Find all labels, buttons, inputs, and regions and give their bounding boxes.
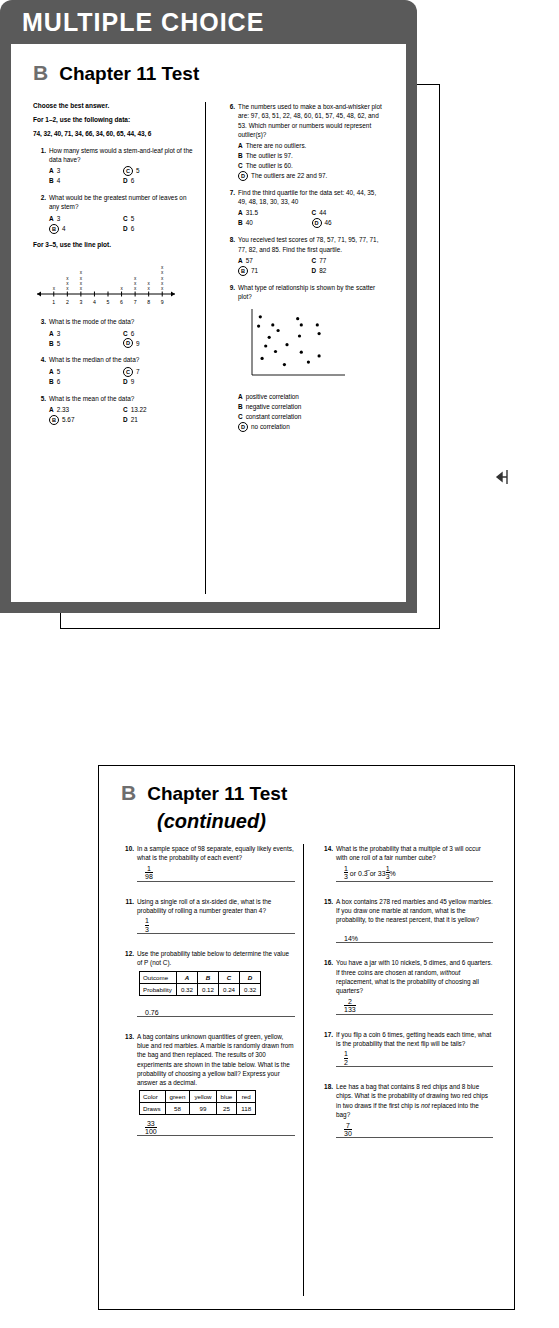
question-text[interactable]: What is the median of the data? — [49, 355, 197, 364]
choice-text[interactable]: 77 — [319, 256, 326, 266]
choice-text[interactable]: 6 — [131, 224, 135, 234]
choice-text[interactable]: 3 — [57, 166, 61, 176]
instruction-line[interactable]: Choose the best answer. — [33, 102, 197, 111]
question[interactable]: 15.A box contains 278 red marbles and 45… — [320, 897, 493, 952]
choice-label[interactable]: A — [238, 256, 243, 266]
choice-text[interactable]: The outlier is 97. — [246, 151, 293, 161]
answer-choice[interactable]: D82 — [312, 266, 386, 276]
choice-text[interactable]: 57 — [246, 256, 253, 266]
question-number[interactable]: 8. — [222, 235, 238, 275]
answer-choice[interactable]: C6 — [123, 329, 197, 339]
choice-label[interactable]: C — [123, 214, 128, 224]
answer-choices[interactable]: A3C5B4D6 — [49, 214, 197, 234]
question[interactable]: 4.What is the median of the data?A5C7B6D… — [33, 355, 197, 386]
question-text[interactable]: What is the mean of the data? — [49, 394, 197, 403]
question-body[interactable]: What type of relationship is shown by th… — [238, 283, 385, 432]
choice-text[interactable]: 3 — [57, 214, 61, 224]
choice-text[interactable]: constant correlation — [246, 412, 302, 422]
choice-text[interactable]: 5 — [57, 339, 61, 349]
choice-label[interactable]: B — [238, 402, 243, 412]
choice-text[interactable]: 82 — [319, 266, 326, 276]
question-body[interactable]: A box contains 278 red marbles and 45 ye… — [336, 897, 493, 952]
choice-text[interactable]: 13.22 — [131, 405, 147, 415]
fraction[interactable]: 12 — [344, 1050, 348, 1066]
answer-choice[interactable]: Bnegative correlation — [238, 402, 385, 412]
answer-choices[interactable]: A3C6B5D9 — [49, 329, 197, 349]
choice-text[interactable]: 6 — [131, 329, 135, 339]
table-cell[interactable]: 0.32 — [240, 983, 261, 995]
answer-choice[interactable]: A31.5 — [238, 208, 312, 218]
answer-line[interactable]: 14% — [336, 927, 493, 943]
table-cell[interactable]: 0.24 — [218, 983, 239, 995]
choice-text[interactable]: 21 — [131, 415, 138, 425]
table-cell[interactable]: 118 — [237, 1103, 256, 1115]
table-cell[interactable]: 0.32 — [176, 983, 197, 995]
answer-choice[interactable]: A5 — [49, 367, 123, 377]
scatter-plot[interactable] — [244, 305, 385, 387]
choice-label[interactable]: A — [49, 214, 54, 224]
choice-label[interactable]: D — [123, 377, 128, 387]
question-body[interactable]: Lee has a bag that contains 8 red chips … — [336, 1082, 493, 1146]
question-number[interactable]: 2. — [33, 193, 49, 233]
choice-text[interactable]: 2.33 — [57, 405, 69, 415]
question[interactable]: 13.A bag contains unknown quantities of … — [121, 1032, 295, 1145]
fraction-numerator[interactable]: 7 — [344, 1122, 352, 1129]
question-number[interactable]: 10. — [121, 844, 137, 890]
question-number[interactable]: 9. — [222, 283, 238, 432]
choice-text[interactable]: 31.5 — [246, 208, 258, 218]
question-body[interactable]: How many stems would a stem-and-leaf plo… — [49, 146, 197, 186]
question-text[interactable]: Using a single roll of a six-sided die, … — [137, 897, 295, 916]
answer-line[interactable]: 13 or 0.3̅ or 3313% — [336, 866, 493, 882]
question-text[interactable]: You have a jar with 10 nickels, 5 dimes,… — [336, 958, 493, 995]
answer-line[interactable]: 33100 — [137, 1120, 295, 1136]
question[interactable]: 17.If you flip a coin 6 times, getting h… — [320, 1030, 493, 1076]
choice-label[interactable]: C — [312, 208, 317, 218]
fraction[interactable]: 2133 — [344, 998, 356, 1014]
question-number[interactable]: 12. — [121, 949, 137, 1025]
fraction-denominator[interactable]: 100 — [145, 1127, 157, 1135]
table-cell[interactable]: C — [218, 971, 239, 983]
choice-label[interactable]: D — [123, 338, 133, 348]
choice-label[interactable]: C — [238, 412, 243, 422]
answer-choice[interactable]: D6 — [123, 224, 197, 234]
answer-choices[interactable]: A3C5B4D6 — [49, 166, 197, 186]
choice-label[interactable]: C — [123, 367, 133, 377]
question-body[interactable]: What is the median of the data?A5C7B6D9 — [49, 355, 197, 386]
answer-choice[interactable]: Apositive correlation — [238, 392, 385, 402]
answer-choice[interactable]: C5 — [123, 214, 197, 224]
choice-text[interactable]: 5 — [131, 214, 135, 224]
table-row-header[interactable]: Color — [140, 1091, 166, 1103]
question[interactable]: 3.What is the mode of the data?A3C6B5D9 — [33, 317, 197, 348]
choice-text[interactable]: The outlier is 60. — [246, 161, 293, 171]
choice-label[interactable]: B — [238, 151, 243, 161]
question-number[interactable]: 7. — [222, 188, 238, 228]
answer-line[interactable]: 13 — [137, 918, 295, 934]
table-cell[interactable]: green — [165, 1091, 190, 1103]
choice-text[interactable]: 5 — [57, 367, 61, 377]
question-text[interactable]: Lee has a bag that contains 8 red chips … — [336, 1082, 493, 1119]
answer-choice[interactable]: C44 — [312, 208, 386, 218]
question-text[interactable]: You received test scores of 78, 57, 71, … — [238, 235, 385, 254]
question-text[interactable]: Find the third quartile for the data set… — [238, 188, 385, 207]
question-text[interactable]: How many stems would a stem-and-leaf plo… — [49, 146, 197, 165]
answer-choice[interactable]: B6 — [49, 377, 123, 387]
question-text[interactable]: What would be the greatest number of lea… — [49, 193, 197, 212]
question-text[interactable]: What type of relationship is shown by th… — [238, 283, 385, 302]
fraction[interactable]: 33100 — [145, 1120, 157, 1136]
choice-text[interactable]: no correlation — [251, 422, 290, 432]
choice-text[interactable]: 6 — [57, 377, 61, 387]
question-text[interactable]: The numbers used to make a box-and-whisk… — [238, 102, 385, 139]
fraction-denominator[interactable]: 2 — [344, 1058, 348, 1066]
question-text[interactable]: In a sample space of 98 separate, equall… — [137, 844, 295, 863]
table-cell[interactable]: yellow — [190, 1091, 216, 1103]
choice-label[interactable]: D — [123, 224, 128, 234]
question-body[interactable]: What is the mode of the data?A3C6B5D9 — [49, 317, 197, 348]
table-row[interactable]: Colorgreenyellowbluered — [140, 1091, 256, 1103]
answer-choice[interactable]: C7 — [123, 367, 197, 377]
table-cell[interactable]: blue — [216, 1091, 237, 1103]
answer-line[interactable]: 198 — [137, 866, 295, 882]
choice-label[interactable]: A — [49, 405, 54, 415]
question-text[interactable]: What is the probability that a multiple … — [336, 844, 493, 863]
choice-label[interactable]: D — [123, 176, 128, 186]
fraction-denominator[interactable]: 98 — [145, 872, 153, 880]
